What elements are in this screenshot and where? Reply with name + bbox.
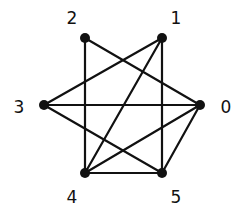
node-label-1: 1: [171, 8, 182, 28]
node-label-5: 5: [171, 187, 182, 207]
node-5: [157, 168, 167, 178]
node-0: [195, 100, 205, 110]
node-1: [157, 33, 167, 43]
node-label-3: 3: [14, 97, 25, 117]
edges-group: [44, 38, 200, 173]
node-label-2: 2: [67, 8, 78, 28]
node-2: [80, 33, 90, 43]
node-label-0: 0: [221, 97, 232, 117]
node-3: [39, 100, 49, 110]
node-4: [80, 168, 90, 178]
node-label-4: 4: [67, 187, 78, 207]
graph-diagram: 012345: [0, 0, 246, 214]
